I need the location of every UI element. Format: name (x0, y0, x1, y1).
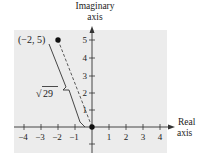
svg-text:4: 4 (158, 132, 163, 142)
svg-text:2: 2 (83, 88, 88, 98)
svg-text:5: 5 (83, 35, 88, 45)
complex-plane-diagram: −4 −3 −2 −1 1 2 3 4 1 2 3 4 5 Imaginary … (0, 0, 206, 163)
imaginary-axis-label: Imaginary (75, 1, 114, 11)
origin-point (89, 124, 94, 129)
svg-text:4: 4 (83, 53, 88, 63)
svg-text:29: 29 (43, 88, 53, 99)
svg-text:−4: −4 (18, 132, 28, 142)
svg-text:3: 3 (83, 71, 88, 81)
point-minus2-5 (55, 37, 60, 42)
svg-text:−1: −1 (69, 132, 79, 142)
svg-text:√: √ (36, 88, 42, 99)
svg-text:2: 2 (124, 132, 129, 142)
svg-text:1: 1 (83, 105, 88, 115)
real-axis-arrow-icon (168, 125, 175, 130)
real-axis-label-2: axis (177, 128, 193, 138)
svg-text:1: 1 (107, 132, 112, 142)
svg-text:−2: −2 (52, 132, 62, 142)
real-axis-label: Real (178, 117, 196, 127)
point-label: (−2, 5) (18, 34, 45, 46)
imaginary-axis-label-2: axis (87, 12, 103, 22)
svg-text:−3: −3 (35, 132, 45, 142)
imaginary-axis-arrow-icon (90, 26, 95, 33)
svg-text:3: 3 (141, 132, 146, 142)
